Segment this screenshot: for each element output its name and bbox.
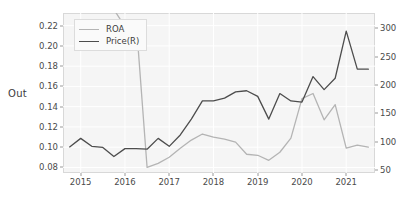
x-tick-mark [301, 173, 302, 176]
legend-item-roa[interactable]: ROA [79, 23, 139, 35]
y-left-tick-mark [60, 147, 63, 148]
y-left-tick-label: 0.16 [39, 81, 58, 91]
legend-label-price: Price(R) [106, 36, 139, 46]
y-left-tick-mark [60, 25, 63, 26]
y-left-tick-label: 0.22 [39, 21, 58, 31]
y-left-tick-label: 0.18 [39, 61, 58, 71]
y-left-tick-mark [60, 45, 63, 46]
y-right-tick-mark [375, 28, 378, 29]
x-tick-label: 2016 [114, 177, 136, 187]
y-right-tick-label: 150 [380, 108, 396, 118]
y-axis-label-out: Out [8, 88, 27, 99]
x-tick-label: 2015 [70, 177, 92, 187]
y-left-tick-label: 0.20 [39, 41, 58, 51]
x-tick-label: 2017 [158, 177, 180, 187]
x-tick-mark [257, 173, 258, 176]
x-tick-label: 2018 [203, 177, 225, 187]
y-right-tick-mark [375, 113, 378, 114]
plot-area: 0.080.100.120.140.160.180.200.22 5010015… [63, 13, 375, 173]
y-right-tick-mark [375, 141, 378, 142]
y-left-tick-mark [60, 167, 63, 168]
legend-item-price[interactable]: Price(R) [79, 35, 139, 47]
legend-swatch-roa [79, 29, 99, 30]
y-right-tick-label: 100 [380, 137, 396, 147]
legend-label-roa: ROA [106, 24, 124, 34]
y-left-tick-label: 0.14 [39, 102, 58, 112]
x-tick-mark [124, 173, 125, 176]
legend-swatch-price [79, 41, 99, 42]
y-right-tick-label: 200 [380, 80, 396, 90]
x-tick-label: 2019 [247, 177, 269, 187]
y-right-tick-label: 300 [380, 23, 396, 33]
chart-legend[interactable]: ROA Price(R) [74, 19, 147, 51]
y-left-tick-label: 0.12 [39, 122, 58, 132]
x-tick-label: 2020 [291, 177, 313, 187]
y-left-tick-label: 0.10 [39, 142, 58, 152]
x-tick-mark [169, 173, 170, 176]
y-right-tick-mark [375, 85, 378, 86]
x-tick-mark [213, 173, 214, 176]
x-tick-mark [346, 173, 347, 176]
chart-figure: Out 0.080.100.120.140.160.180.200.22 501… [0, 0, 417, 199]
y-left-tick-mark [60, 66, 63, 67]
y-left-tick-mark [60, 106, 63, 107]
y-right-tick-mark [375, 56, 378, 57]
x-tick-label: 2021 [335, 177, 357, 187]
y-right-tick-label: 250 [380, 52, 396, 62]
x-tick-mark [80, 173, 81, 176]
y-left-tick-mark [60, 126, 63, 127]
y-left-tick-label: 0.08 [39, 162, 58, 172]
y-right-tick-label: 50 [380, 165, 391, 175]
y-left-tick-mark [60, 86, 63, 87]
y-right-tick-mark [375, 170, 378, 171]
